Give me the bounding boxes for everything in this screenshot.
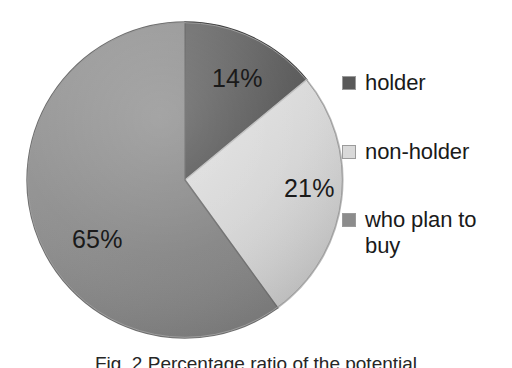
pie-chart-figure: 14% 21% 65% holder non-holder who plan t… xyxy=(0,0,512,368)
legend-label-holder: holder xyxy=(365,70,426,96)
slice-value-plan-to-buy: 65% xyxy=(72,227,123,252)
legend-item-non-holder: non-holder xyxy=(342,139,510,165)
legend-label-non-holder: non-holder xyxy=(365,139,469,165)
legend-swatch-plan-to-buy xyxy=(342,213,356,227)
legend-item-plan-to-buy: who plan to buy xyxy=(342,207,510,258)
legend-item-holder: holder xyxy=(342,70,510,96)
legend-label-plan-to-buy: who plan to buy xyxy=(365,207,510,258)
slice-value-holder: 14% xyxy=(212,66,263,91)
slice-value-non-holder: 21% xyxy=(284,176,335,201)
chart-legend: holder non-holder who plan to buy xyxy=(342,70,510,258)
legend-swatch-non-holder xyxy=(342,145,356,159)
figure-caption: Fig. 2 Percentage ratio of the potential xyxy=(0,352,512,368)
legend-swatch-holder xyxy=(342,76,356,90)
